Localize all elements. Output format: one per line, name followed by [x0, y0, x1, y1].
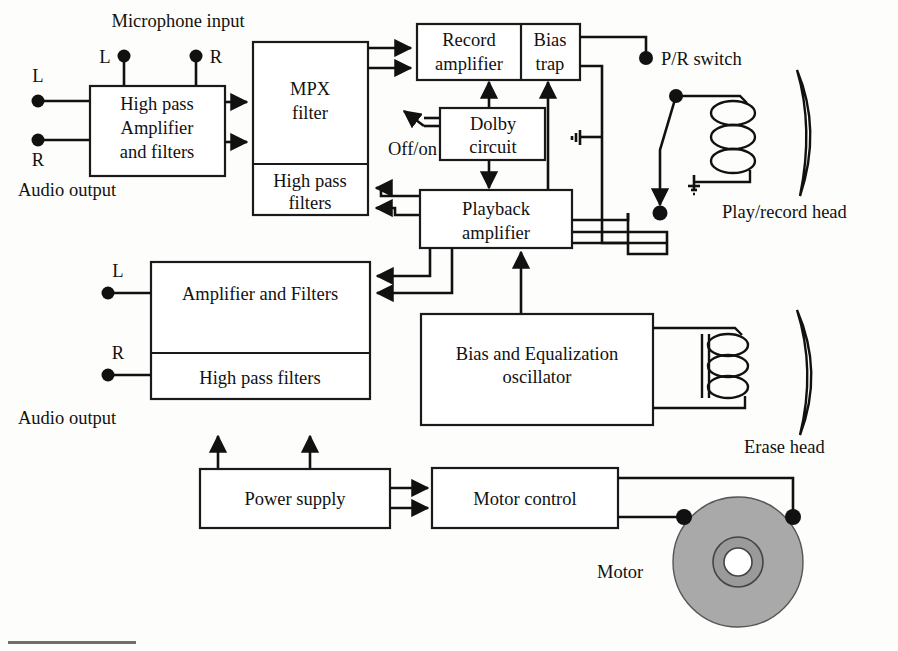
block-label-bias-trap-line1: Bias — [534, 30, 567, 50]
microphone-input-label: Microphone input — [111, 11, 245, 31]
mic-right-label: R — [210, 47, 223, 67]
motor-label: Motor — [597, 562, 643, 582]
audio-output-bottom-label: Audio output — [18, 408, 117, 428]
block-label-record-amp-line2: amplifier — [435, 54, 503, 74]
block-label-power-supply: Power supply — [244, 489, 346, 509]
block-label-bias-trap-line2: trap — [536, 54, 565, 74]
input-left-label: L — [32, 66, 43, 86]
block-label-mpx-line1: MPX — [290, 79, 331, 99]
block-label-bias-osc-line1: Bias and Equalization — [456, 344, 618, 364]
pr-switch-label: P/R switch — [661, 49, 742, 69]
play-record-head-label: Play/record head — [722, 202, 848, 222]
block-label-playback-line1: Playback — [462, 199, 531, 219]
block-label-high-pass-amplifier-line2: Amplifier — [121, 118, 194, 138]
erase-head-label: Erase head — [744, 437, 825, 457]
block-label-mpx-hp-line2: filters — [288, 193, 331, 213]
page-edge-artifact — [8, 641, 136, 644]
block-label-record-amp-line1: Record — [442, 30, 496, 50]
block-label-bias-osc-line2: oscillator — [503, 367, 572, 387]
off-on-label: Off/on — [388, 139, 437, 159]
block-label-output-hp: High pass filters — [199, 368, 320, 388]
block-label-playback-line2: amplifier — [462, 223, 530, 243]
block-label-motor-control: Motor control — [473, 489, 576, 509]
block-label-mpx-hp-line1: High pass — [273, 171, 347, 191]
mic-left-label: L — [99, 47, 110, 67]
block-label-dolby-line2: circuit — [469, 137, 517, 157]
block-label-high-pass-amplifier-line1: High pass — [120, 94, 194, 114]
audio-output-top-label: Audio output — [18, 180, 117, 200]
block-label-dolby-line1: Dolby — [470, 114, 517, 134]
diagram-text-layer: Microphone input L R L R Audio output Hi… — [0, 0, 898, 651]
output-right-label: R — [112, 343, 125, 363]
block-diagram: Microphone input L R L R Audio output Hi… — [0, 0, 898, 651]
block-label-mpx-line2: filter — [292, 103, 328, 123]
output-left-label: L — [112, 261, 123, 281]
block-label-output-amp: Amplifier and Filters — [182, 284, 338, 304]
block-label-high-pass-amplifier-line3: and filters — [120, 142, 195, 162]
input-right-label: R — [32, 150, 45, 170]
